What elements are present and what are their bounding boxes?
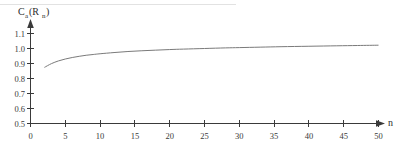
data-series-curve — [44, 45, 378, 67]
x-tick-label-35: 35 — [270, 131, 279, 141]
y-axis-title-main: C — [18, 6, 25, 17]
y-axis: 1.1 1.0 0.9 0.8 0.7 0.6 0.5 — [14, 19, 34, 129]
y-axis-title: C a (R n ) — [18, 6, 49, 20]
y-tick-label-0.7: 0.7 — [14, 89, 25, 99]
y-tick-label-0.6: 0.6 — [14, 104, 25, 114]
y-tick-label-1.0: 1.0 — [14, 44, 25, 54]
x-tick-label-45: 45 — [339, 131, 348, 141]
y-axis-title-arg-open: (R — [29, 6, 39, 18]
x-axis: 0 5 10 15 20 25 30 35 40 45 50 n — [28, 117, 393, 141]
x-tick-label-20: 20 — [165, 131, 174, 141]
x-tick-label-0: 0 — [28, 131, 32, 141]
x-tick-label-5: 5 — [63, 131, 67, 141]
y-tick-label-0.8: 0.8 — [14, 74, 25, 84]
y-axis-arrow-icon — [27, 19, 34, 28]
x-tick-label-25: 25 — [200, 131, 209, 141]
y-tick-label-0.5: 0.5 — [14, 119, 25, 129]
y-tick-label-1.1: 1.1 — [14, 29, 25, 39]
x-tick-label-40: 40 — [305, 131, 314, 141]
y-axis-title-arg-close: ) — [46, 6, 49, 18]
x-axis-title: n — [388, 117, 393, 128]
x-tick-label-30: 30 — [235, 131, 244, 141]
x-axis-arrow-icon — [376, 120, 385, 127]
y-tick-label-0.9: 0.9 — [14, 59, 25, 69]
x-tick-label-10: 10 — [96, 131, 105, 141]
chart-plot-area: 1.1 1.0 0.9 0.8 0.7 0.6 0.5 C a (R n ) — [0, 0, 396, 149]
x-tick-label-50: 50 — [374, 131, 383, 141]
chart-figure: 1.1 1.0 0.9 0.8 0.7 0.6 0.5 C a (R n ) — [0, 0, 396, 149]
x-tick-label-15: 15 — [131, 131, 140, 141]
